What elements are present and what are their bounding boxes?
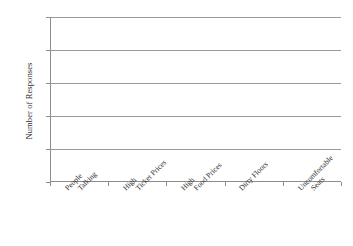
y-tick-mark xyxy=(46,17,50,18)
plot-area xyxy=(50,17,341,182)
bar-slot xyxy=(51,17,109,181)
bar-chart-figure: Number of Responses 0510152025 PeopleTal… xyxy=(0,0,353,246)
y-tick-mark xyxy=(46,83,50,84)
x-axis-category-labels: PeopleTalkingHighTicket PricesHighFood P… xyxy=(50,186,341,244)
bar-series xyxy=(51,17,341,181)
x-tick-mark xyxy=(341,182,342,186)
y-tick-mark xyxy=(46,149,50,150)
y-axis-title: Number of Responses xyxy=(24,26,34,176)
y-tick-mark xyxy=(46,116,50,117)
y-tick-mark xyxy=(46,50,50,51)
bar-slot xyxy=(167,17,225,181)
bar-slot xyxy=(225,17,283,181)
